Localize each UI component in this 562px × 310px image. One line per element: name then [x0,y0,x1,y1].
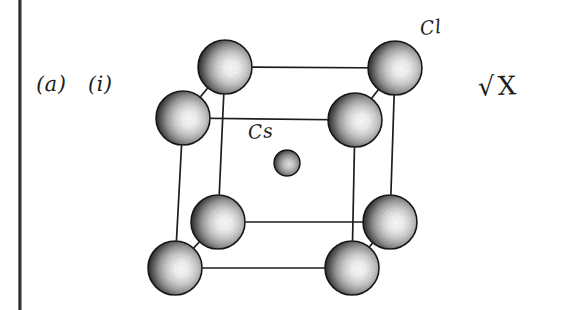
figure-canvas: (a) (i) Cl Cs √X [0,0,562,310]
cl-sphere-back-bottom-left [191,195,245,249]
cscl-unit-cell-diagram [0,0,562,310]
cation-label: Cs [247,121,274,142]
anion-label: Cl [419,17,443,38]
cl-sphere-front-bottom-left [148,241,202,295]
cl-sphere-front-top-right [328,93,382,147]
cl-sphere-front-top-left [156,91,210,145]
cl-sphere-back-top-right [368,41,422,95]
cl-sphere-back-top-left [198,40,252,94]
cl-sphere-back-bottom-right [363,195,417,249]
subpart-label: (i) [88,74,113,95]
part-label: (a) [36,74,67,96]
atom-spheres [148,40,422,295]
grading-marks: √X [478,72,520,99]
cs-sphere-body-centre [274,150,300,176]
cl-sphere-front-bottom-right [325,241,379,295]
